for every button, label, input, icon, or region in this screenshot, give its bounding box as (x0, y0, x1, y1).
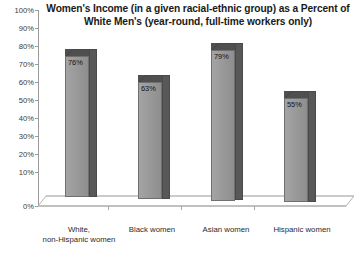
y-axis-tick-30: 30% (0, 133, 34, 141)
axis-tickmark (35, 118, 38, 119)
axis-tickmark (35, 10, 38, 11)
axis-tickmark (35, 136, 38, 137)
bar-front-face (211, 50, 235, 201)
bar-side-face (235, 43, 243, 200)
y-axis-tick-60: 60% (0, 79, 34, 87)
y-axis-tick-40: 40% (0, 115, 34, 123)
y-axis-tick-70: 70% (0, 61, 34, 69)
bar-front-face (284, 98, 308, 202)
y-axis-tick-label: 10% (19, 168, 34, 177)
axis-tickmark (35, 82, 38, 83)
axis-tickmark (35, 172, 38, 173)
category-tick (108, 206, 109, 210)
bar-top-face (138, 75, 162, 82)
y-axis-tick-label: 20% (19, 150, 34, 159)
y-axis-tick-100: 100% (0, 7, 34, 15)
y-axis-tick-label: 60% (19, 78, 34, 87)
bar-top-face (284, 91, 308, 98)
axis-tickmark (35, 64, 38, 65)
bar-front-face (65, 56, 89, 197)
bar-value-label: 55% (287, 101, 302, 109)
y-axis-tick-label: 50% (19, 96, 34, 105)
y-axis-tick-80: 80% (0, 43, 34, 51)
bar-top-face (211, 43, 235, 50)
bar-value-label: 63% (141, 85, 156, 93)
category-label-line: non-Hispanic women (33, 235, 125, 245)
y-axis-tick-10: 10% (0, 169, 34, 177)
bar-white-non-hispanic-women[interactable]: 76% (65, 10, 99, 206)
axis-tickmark (35, 46, 38, 47)
axis-tickmark (35, 154, 38, 155)
bar-front-face (138, 82, 162, 199)
bar-asian-women[interactable]: 79% (211, 10, 245, 206)
bar-value-label: 79% (214, 53, 229, 61)
y-axis-tick-90: 90% (0, 25, 34, 33)
bar-value-label: 76% (68, 59, 83, 67)
y-axis-tick-label: 90% (19, 24, 34, 33)
axis-tickmark (35, 100, 38, 101)
y-axis-tick-label: 0% (23, 202, 34, 211)
y-axis-tick-0: 0% (0, 203, 34, 211)
bar-black-women[interactable]: 63% (138, 10, 172, 206)
category-tick (181, 206, 182, 210)
category-tick (254, 206, 255, 210)
y-axis-tick-20: 20% (0, 151, 34, 159)
y-axis-tick-label: 40% (19, 114, 34, 123)
bar-side-face (162, 75, 170, 199)
y-axis-tick-label: 30% (19, 132, 34, 141)
y-axis-tick-label: 70% (19, 60, 34, 69)
value-axis-line (38, 10, 39, 206)
bar-hispanic-women[interactable]: 55% (284, 10, 318, 206)
y-axis-tick-label: 80% (19, 42, 34, 51)
bar-side-face (89, 49, 97, 197)
y-axis-tick-50: 50% (0, 97, 34, 105)
axis-tickmark (35, 28, 38, 29)
bar-side-face (308, 91, 316, 202)
bar-top-face (65, 49, 89, 56)
category-label-hispanic-women: Hispanic women (254, 225, 350, 235)
category-label-line: Hispanic women (254, 225, 350, 235)
y-axis-tick-label: 100% (15, 6, 34, 15)
plot-area: 76% 63% 79% 55% (38, 10, 354, 217)
chart-container: Women's Income (in a given racial-ethnic… (0, 0, 358, 256)
